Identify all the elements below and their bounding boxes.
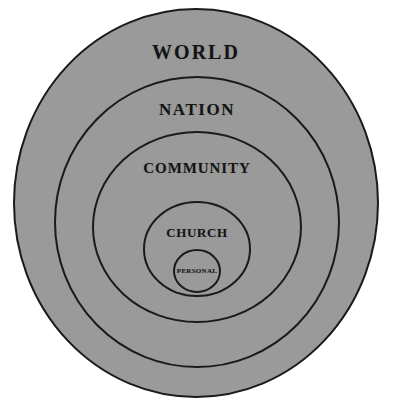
ring-label-community: COMMUNITY	[143, 160, 250, 177]
ring-label-world: WORLD	[152, 41, 240, 64]
ring-label-church: CHURCH	[166, 225, 228, 241]
ring-label-nation: NATION	[159, 100, 235, 120]
ring-label-personal: PERSONAL	[177, 267, 217, 275]
concentric-circles-diagram: WORLD NATION COMMUNITY CHURCH PERSONAL	[0, 0, 394, 414]
